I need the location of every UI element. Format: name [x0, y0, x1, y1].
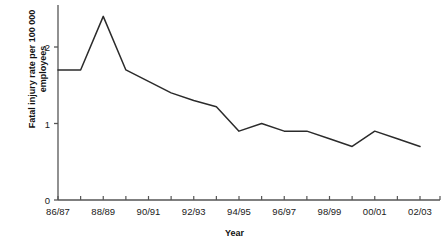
x-axis-tick-label: 88/89 [91, 206, 115, 217]
x-axis-label: Year [0, 228, 447, 238]
x-axis-tick-label: 02/03 [408, 206, 432, 217]
x-axis-tick-label: 86/87 [46, 206, 70, 217]
y-axis-tick-label: 1 [36, 118, 50, 129]
data-series-line [58, 16, 420, 146]
x-axis-tick-label: 98/99 [318, 206, 342, 217]
x-axis-tick-label: 90/91 [137, 206, 161, 217]
x-axis-tick-label: 92/93 [182, 206, 206, 217]
chart-figure: Fatal injury rate per 100 000 employees … [0, 0, 447, 250]
x-axis-tick-label: 00/01 [363, 206, 387, 217]
x-axis-tick-label: 96/97 [272, 206, 296, 217]
x-axis-label-text: Year [225, 228, 244, 238]
x-axis-tick-label: 94/95 [227, 206, 251, 217]
y-axis-tick-label: 2 [36, 42, 50, 53]
y-axis-tick-label: 0 [36, 195, 50, 206]
